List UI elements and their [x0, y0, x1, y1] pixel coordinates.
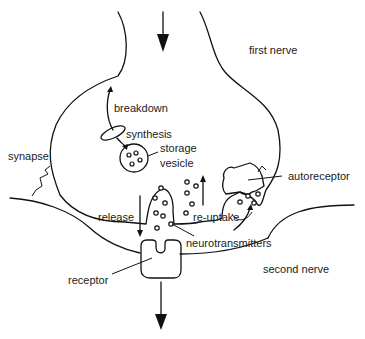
label-synthesis: synthesis: [126, 128, 172, 140]
signal-input-arrow-icon: [157, 12, 169, 52]
label-first-nerve: first nerve: [249, 44, 297, 56]
synapse-diagram: first nerve breakdown synthesis storage …: [0, 0, 365, 339]
label-release: release: [98, 211, 134, 223]
synapse-marker: [32, 166, 50, 196]
label-second-nerve: second nerve: [263, 263, 329, 275]
release-arrow-icon: [137, 230, 143, 237]
synthesis-enzyme: [99, 123, 127, 143]
label-storage: storage: [160, 142, 197, 154]
second-nerve-membrane: [10, 198, 140, 253]
signal-output-arrow-icon: [155, 282, 167, 330]
label-vesicle: vesicle: [160, 157, 194, 169]
diagram-canvas: first nerve breakdown synthesis storage …: [0, 0, 365, 339]
breakdown-arrow-icon: [107, 86, 113, 92]
label-synapse: synapse: [8, 150, 49, 162]
reuptake-arrow-icon: [200, 175, 206, 182]
label-autoreceptor: autoreceptor: [288, 170, 350, 182]
label-re-uptake: re-uptake: [193, 211, 239, 223]
receptor-shape: [141, 240, 181, 278]
label-breakdown: breakdown: [114, 102, 168, 114]
label-receptor: receptor: [68, 274, 109, 286]
label-neurotransmitters: neurotransmitters: [186, 237, 272, 249]
